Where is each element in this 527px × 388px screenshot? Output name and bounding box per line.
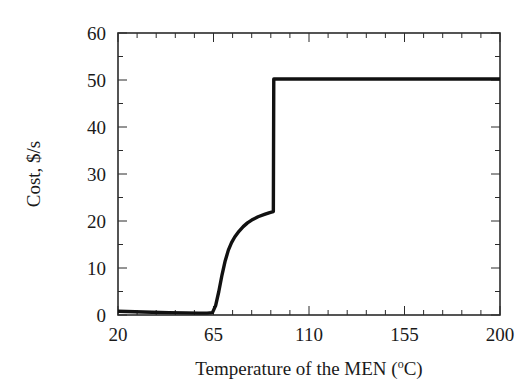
x-axis-title-main: Temperature of the MEN ( <box>195 358 397 380</box>
x-tick-label: 65 <box>204 324 223 345</box>
x-axis-title-tail: C) <box>404 358 423 380</box>
y-tick-label: 60 <box>87 23 106 44</box>
figure-background <box>0 0 527 388</box>
y-tick-label: 40 <box>87 117 106 138</box>
x-tick-label: 110 <box>295 324 323 345</box>
x-axis-title: Temperature of the MEN (oC) <box>195 357 422 380</box>
cost-vs-temperature-line-chart: 0102030405060 2065110155200 Cost, $/s Te… <box>0 0 527 388</box>
y-tick-label: 20 <box>87 211 106 232</box>
y-axis-title: Cost, $/s <box>23 141 44 208</box>
x-tick-label: 20 <box>109 324 128 345</box>
y-tick-label: 0 <box>97 305 107 326</box>
y-tick-label: 10 <box>87 258 106 279</box>
x-tick-label: 200 <box>486 324 515 345</box>
chart-figure: 0102030405060 2065110155200 Cost, $/s Te… <box>0 0 527 388</box>
x-tick-label: 155 <box>390 324 419 345</box>
y-tick-label: 50 <box>87 70 106 91</box>
y-tick-label: 30 <box>87 164 106 185</box>
